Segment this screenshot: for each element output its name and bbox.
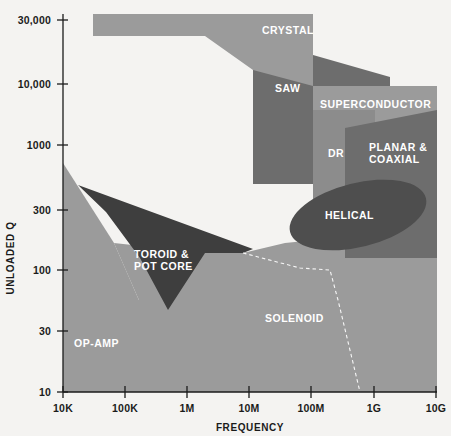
x-tick-label-1g: 1G (367, 402, 381, 414)
region-label-toroid-pot-core-line1: TOROID & (134, 248, 189, 260)
region-label-toroid-pot-core-line2: POT CORE (134, 260, 193, 272)
region-label-op-amp: OP-AMP (74, 337, 119, 349)
unloaded-q-vs-frequency-chart: 30,000 10,000 1000 300 100 30 10 10K 100… (0, 0, 451, 436)
y-tick-label-10: 10 (39, 386, 51, 398)
y-tick-label-30: 30 (39, 325, 51, 337)
y-tick-label-300: 300 (33, 204, 51, 216)
y-tick-label-30000: 30,000 (18, 14, 51, 26)
region-label-superconductor: SUPERCONDUCTOR (320, 98, 431, 110)
x-tick-label-1m: 1M (180, 402, 195, 414)
y-tick-label-10000: 10,000 (18, 78, 51, 90)
y-tick-label-1000: 1000 (27, 139, 51, 151)
region-label-planar-coaxial-line1: PLANAR & (369, 141, 427, 153)
y-tick-label-100: 100 (33, 264, 51, 276)
x-tick-label-10g: 10G (426, 402, 446, 414)
y-axis-title: UNLOADED Q (5, 221, 16, 294)
x-tick-label-100k: 100K (112, 402, 138, 414)
region-solenoid-lower-fill (63, 300, 437, 392)
region-label-saw: SAW (275, 82, 300, 94)
region-label-crystal: CRYSTAL (262, 24, 314, 36)
region-label-helical: HELICAL (325, 209, 374, 221)
x-tick-label-10k: 10K (53, 402, 73, 414)
x-tick-label-100m: 100M (297, 402, 324, 414)
region-label-dr: DR (328, 147, 344, 159)
chart-svg: 30,000 10,000 1000 300 100 30 10 10K 100… (0, 0, 451, 436)
x-tick-label-10m: 10M (238, 402, 259, 414)
region-label-planar-coaxial-line2: COAXIAL (369, 153, 420, 165)
region-label-solenoid: SOLENOID (265, 312, 324, 324)
x-axis-title: FREQUENCY (216, 422, 284, 433)
